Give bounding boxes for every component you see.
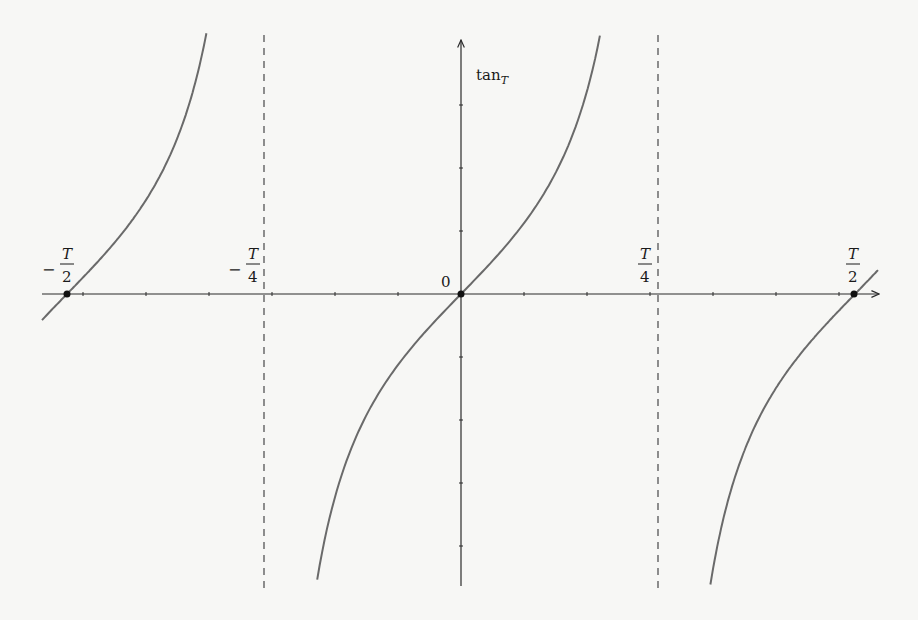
svg-text:4: 4 bbox=[248, 268, 258, 286]
y-axis-label: tanT bbox=[476, 66, 510, 87]
zero-point-origin bbox=[458, 291, 465, 298]
svg-text:−: − bbox=[42, 260, 55, 279]
svg-text:2: 2 bbox=[62, 268, 72, 286]
curve-right-branch bbox=[710, 270, 878, 584]
zero-point-minus-t2 bbox=[64, 291, 71, 298]
svg-text:T: T bbox=[848, 245, 859, 263]
tick-label-minus-t2: − T 2 bbox=[42, 245, 74, 286]
tick-label-plus-t2: T 2 bbox=[846, 245, 860, 286]
zero-point-plus-t2 bbox=[851, 291, 858, 298]
svg-text:−: − bbox=[228, 260, 241, 279]
tick-label-minus-t4: − T 4 bbox=[228, 245, 260, 286]
origin-label: 0 bbox=[441, 273, 451, 291]
svg-text:T: T bbox=[248, 245, 259, 263]
svg-text:T: T bbox=[640, 245, 651, 263]
curve-middle-branch bbox=[317, 36, 600, 580]
tick-label-plus-t4: T 4 bbox=[638, 245, 652, 286]
tangent-plot: tanT 0 − T 2 − T 4 T 4 T 2 bbox=[0, 0, 918, 620]
svg-text:2: 2 bbox=[848, 268, 858, 286]
svg-text:T: T bbox=[62, 245, 73, 263]
svg-text:4: 4 bbox=[640, 268, 650, 286]
